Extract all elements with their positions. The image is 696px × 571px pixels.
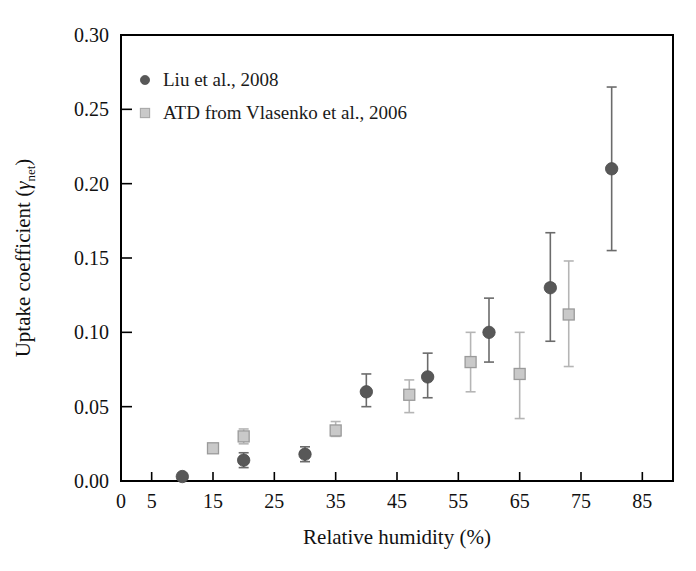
- data-point: [605, 87, 617, 251]
- legend-label: Liu et al., 2008: [163, 69, 279, 90]
- y-axis-tick-label: 0.05: [74, 396, 109, 418]
- marker-circle: [176, 470, 188, 482]
- data-series-1: [176, 87, 618, 483]
- x-axis-tick-label: 25: [264, 490, 284, 512]
- x-axis-tick-label: 35: [326, 490, 346, 512]
- y-axis-tick-label: 0.00: [74, 470, 109, 492]
- y-axis-tick-label: 0.20: [74, 173, 109, 195]
- y-axis-tick-label: 0.15: [74, 247, 109, 269]
- marker-square: [330, 425, 341, 436]
- data-point: [299, 447, 311, 462]
- y-axis-tick-label: 0.30: [74, 24, 109, 46]
- data-point: [514, 332, 525, 418]
- legend-item-1: Liu et al., 2008: [140, 69, 278, 90]
- chart-figure: 0515253545556575850.000.050.100.150.200.…: [0, 0, 696, 571]
- marker-square: [238, 431, 249, 442]
- x-axis-tick-label: 65: [510, 490, 530, 512]
- marker-square: [208, 443, 219, 454]
- x-axis-tick-label: 45: [387, 490, 407, 512]
- legend-item-2: ATD from Vlasenko et al., 2006: [140, 102, 407, 123]
- data-point: [238, 429, 249, 444]
- data-point: [208, 443, 219, 454]
- marker-circle: [605, 163, 617, 175]
- data-point: [563, 261, 574, 367]
- marker-circle: [360, 386, 372, 398]
- marker-square: [404, 389, 415, 400]
- legend-marker-circle: [140, 75, 149, 84]
- data-point: [465, 332, 476, 391]
- x-axis-tick-label: 0: [116, 490, 126, 512]
- x-axis-tick-label: 85: [632, 490, 652, 512]
- chart-legend: Liu et al., 2008ATD from Vlasenko et al.…: [140, 69, 407, 123]
- data-point: [360, 374, 372, 407]
- x-axis-title: Relative humidity (%): [303, 525, 491, 549]
- legend-label: ATD from Vlasenko et al., 2006: [163, 102, 407, 123]
- svg-text:Uptake coefficient (γnet): Uptake coefficient (γnet): [11, 159, 38, 358]
- marker-circle: [237, 454, 249, 466]
- marker-circle: [421, 371, 433, 383]
- marker-circle: [483, 326, 495, 338]
- data-series-2: [208, 261, 575, 454]
- marker-square: [514, 368, 525, 379]
- data-point: [404, 380, 415, 413]
- data-point: [421, 353, 433, 398]
- x-axis-tick-label: 15: [203, 490, 223, 512]
- marker-circle: [544, 282, 556, 294]
- marker-square: [563, 309, 574, 320]
- legend-marker-square: [140, 108, 149, 117]
- y-axis-tick-label: 0.25: [74, 98, 109, 120]
- x-axis-tick-label: 75: [571, 490, 591, 512]
- x-axis-tick-label: 55: [448, 490, 468, 512]
- y-axis-tick-label: 0.10: [74, 321, 109, 343]
- data-point: [330, 422, 341, 437]
- data-point: [176, 470, 188, 482]
- data-point: [237, 453, 249, 468]
- marker-circle: [299, 448, 311, 460]
- x-axis-tick-label: 5: [147, 490, 157, 512]
- data-point: [483, 298, 495, 362]
- data-point: [544, 233, 556, 342]
- scatter-plot-canvas: 0515253545556575850.000.050.100.150.200.…: [0, 0, 696, 571]
- marker-square: [465, 357, 476, 368]
- y-axis-title: Uptake coefficient (γnet): [11, 159, 38, 358]
